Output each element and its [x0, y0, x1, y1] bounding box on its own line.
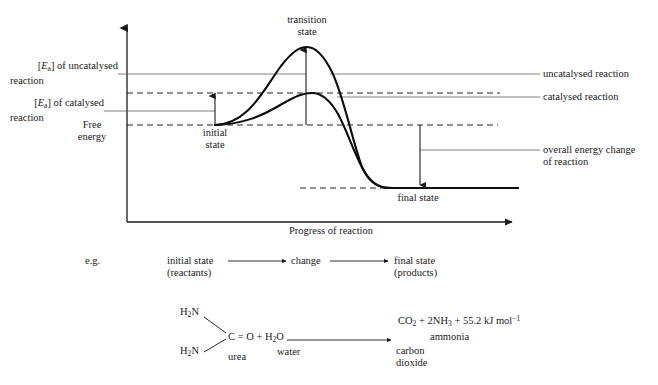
carbon-dioxide-line2: dioxide	[396, 357, 428, 368]
curve-group	[215, 47, 518, 188]
example-initial-state-line1: initial state	[167, 255, 213, 266]
diagram-canvas	[0, 0, 658, 385]
initial-state-label: initial state	[183, 127, 247, 152]
ammonia-caption: ammonia	[430, 331, 469, 343]
urea-caption: urea	[228, 351, 246, 363]
initial-state-line1: initial	[203, 127, 228, 138]
example-prefix: e.g.	[85, 255, 100, 267]
transition-state-line2: state	[297, 26, 316, 37]
uncatalysed-reaction-label: uncatalysed reaction	[543, 68, 629, 80]
example-final-state-line2: (products)	[394, 267, 437, 278]
example-final-state: final state (products)	[394, 255, 437, 280]
ea-uncatalysed-label-line2: reaction	[6, 75, 118, 87]
overall-energy-change-label: overall energy change of reaction	[543, 144, 636, 169]
example-initial-state: initial state (reactants)	[167, 255, 213, 280]
amine-group-top: H2N	[180, 306, 199, 321]
catalysed-reaction-label: catalysed reaction	[543, 91, 619, 103]
energy-profile-figure: [Ea] of uncatalysed reaction [Ea] of cat…	[0, 0, 658, 385]
y-axis-label-line2: energy	[78, 131, 106, 142]
initial-state-line2: state	[205, 139, 224, 150]
catalysed-reaction-curve	[215, 93, 518, 188]
uncatalysed-reaction-curve	[215, 47, 518, 188]
carbonyl-water-term: C = O + H2O	[228, 331, 284, 346]
overall-change-line2: of reaction	[543, 156, 588, 167]
transition-state-label: transition state	[258, 14, 356, 39]
y-axis-label: Free energy	[62, 119, 122, 144]
amine-group-bottom: H2N	[180, 345, 199, 360]
y-axis-label-line1: Free	[83, 119, 102, 130]
urea-bond-lower	[204, 339, 226, 352]
example-final-state-line1: final state	[394, 255, 435, 266]
x-axis-label: Progress of reaction	[256, 225, 406, 237]
example-flow-arrows	[228, 261, 391, 340]
water-caption: water	[277, 346, 300, 358]
example-change: change	[291, 255, 321, 267]
ea-uncatalysed-label: [Ea] of uncatalysed reaction	[6, 60, 118, 87]
products-term: CO2 + 2NH3 + 55.2 kJ mol−1	[398, 313, 520, 330]
urea-bond-upper	[204, 317, 226, 333]
overall-change-line1: overall energy change	[543, 144, 636, 155]
left-leader-lines	[104, 74, 306, 111]
carbon-dioxide-caption: carbon dioxide	[396, 345, 428, 370]
transition-state-line1: transition	[287, 14, 327, 25]
measure-arrows	[215, 50, 420, 185]
example-initial-state-line2: (reactants)	[167, 267, 211, 278]
urea-bonds	[204, 317, 226, 352]
final-state-label: final state	[383, 192, 453, 204]
right-leader-lines	[330, 74, 540, 150]
carbon-dioxide-line1: carbon	[396, 345, 425, 356]
